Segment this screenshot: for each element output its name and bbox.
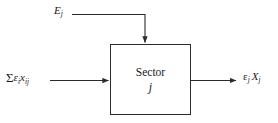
output-label-output-subscript: j	[258, 75, 260, 84]
output-label-epsilon-subscript: j	[248, 75, 250, 84]
output-label-total: εjXj	[243, 71, 261, 84]
input-label-flow-subscript: ij	[25, 77, 29, 86]
sector-block: Sector j	[110, 44, 191, 115]
input-label-energy-subscript: j	[61, 9, 63, 18]
sector-block-content: Sector j	[111, 45, 190, 114]
input-label-energy-symbol: E	[54, 4, 61, 16]
diagram-canvas: Ej Σεixij Sector j εjXj	[0, 0, 278, 123]
input-label-energy: Ej	[54, 5, 63, 18]
top-input-connector	[72, 15, 145, 43]
input-label-intermediate: Σεixij	[6, 71, 29, 85]
summation-icon: Σ	[6, 70, 14, 85]
sector-block-index: j	[149, 81, 152, 94]
sector-block-title: Sector	[136, 66, 165, 78]
